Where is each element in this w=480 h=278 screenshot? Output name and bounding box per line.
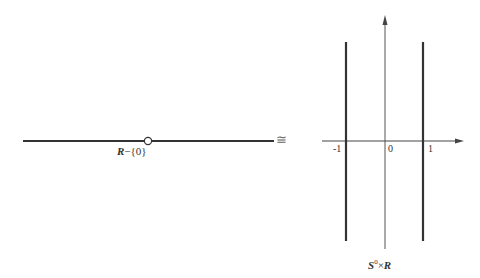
diagram-canvas [0,0,480,278]
homeomorphic-symbol: ≅ [276,132,287,148]
tick-label-one: 1 [428,143,433,154]
x-axis-arrow-icon [455,139,464,144]
tick-label-zero: 0 [388,143,393,154]
left-figure-label: R−{0} [117,145,147,157]
removed-origin-point [144,137,151,144]
y-axis-arrow-icon [383,15,388,25]
right-figure-label: S0×R [368,258,391,271]
tick-label-minus-one: -1 [333,143,341,154]
